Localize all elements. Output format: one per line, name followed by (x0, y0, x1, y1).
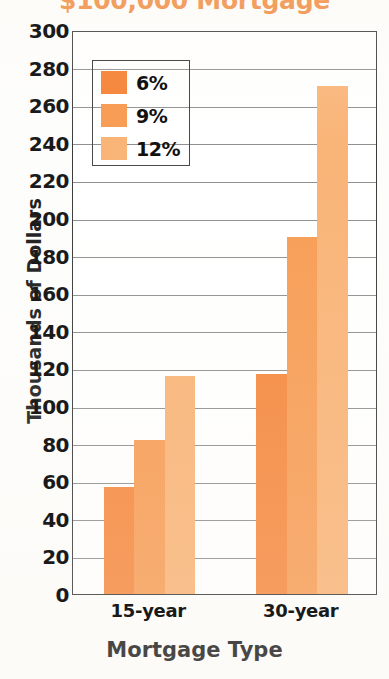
y-tick-label: 180 (9, 245, 69, 269)
bar-chart: $100,000 Mortgage Thousands of Dollars M… (0, 0, 389, 679)
legend-label: 12% (136, 138, 180, 160)
y-tick-label: 220 (9, 169, 69, 193)
x-axis-title: Mortgage Type (0, 638, 389, 662)
y-tick-label: 280 (9, 57, 69, 81)
legend: 6%9%12% (92, 60, 190, 166)
legend-label: 6% (136, 72, 167, 94)
y-tick-label: 160 (9, 282, 69, 306)
legend-item[interactable]: 6% (101, 66, 189, 99)
bar[interactable] (256, 374, 287, 594)
y-tick-label: 120 (9, 357, 69, 381)
bar[interactable] (104, 487, 135, 594)
legend-swatch (101, 104, 127, 127)
legend-item[interactable]: 12% (101, 132, 189, 165)
y-tick-label: 300 (9, 19, 69, 43)
y-tick-label: 0 (9, 583, 69, 607)
y-tick-label: 260 (9, 94, 69, 118)
legend-swatch (101, 71, 127, 94)
x-tick-label: 15-year (72, 600, 225, 621)
bar[interactable] (134, 440, 165, 594)
y-tick-label: 200 (9, 207, 69, 231)
y-tick-label: 40 (9, 508, 69, 532)
y-tick-label: 60 (9, 470, 69, 494)
legend-item[interactable]: 9% (101, 99, 189, 132)
bar[interactable] (317, 86, 348, 594)
legend-swatch (101, 137, 127, 160)
y-tick-label: 140 (9, 320, 69, 344)
legend-label: 9% (136, 105, 167, 127)
bar[interactable] (287, 237, 318, 594)
y-tick-label: 100 (9, 395, 69, 419)
y-tick-label: 240 (9, 132, 69, 156)
y-tick-label: 80 (9, 433, 69, 457)
bar[interactable] (165, 376, 196, 594)
y-tick-label: 20 (9, 545, 69, 569)
chart-title: $100,000 Mortgage (0, 0, 389, 15)
x-tick-label: 30-year (225, 600, 378, 621)
bar-group (256, 32, 348, 594)
